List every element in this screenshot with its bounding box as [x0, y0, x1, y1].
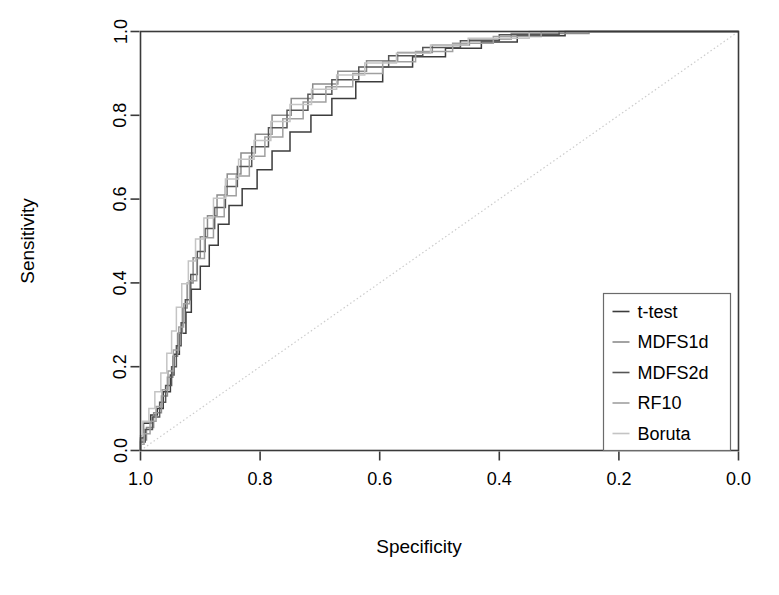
x-axis-tick-label: 0.2: [606, 469, 631, 489]
legend-item-label: Boruta: [638, 424, 692, 444]
y-axis-tick-label: 1.0: [111, 19, 131, 44]
legend-item-label: RF10: [638, 393, 682, 413]
legend-item-label: t-test: [638, 302, 678, 322]
x-axis-tick-label: 0.4: [487, 469, 512, 489]
legend-item-label: MDFS2d: [638, 363, 709, 383]
x-axis-tick-label: 0.6: [367, 469, 392, 489]
roc-chart-canvas: 1.00.80.60.40.20.0 0.00.20.40.60.81.0 Sp…: [0, 0, 779, 595]
y-axis-tick-label: 0.4: [111, 270, 131, 295]
x-axis-tick-label: 1.0: [128, 469, 153, 489]
y-axis-tick-label: 0.2: [111, 354, 131, 379]
x-axis-tick-label: 0.0: [726, 469, 751, 489]
y-axis-tick-label: 0.0: [111, 438, 131, 463]
y-axis-tick-label: 0.6: [111, 187, 131, 212]
roc-curve-figure: 1.00.80.60.40.20.0 0.00.20.40.60.81.0 Sp…: [0, 0, 779, 595]
legend[interactable]: t-testMDFS1dMDFS2dRF10Boruta: [604, 294, 731, 451]
x-axis-tick-label: 0.8: [248, 469, 273, 489]
x-axis-title: Specificity: [376, 536, 462, 557]
y-axis-tick-label: 0.8: [111, 103, 131, 128]
y-axis-title: Sensitivity: [17, 198, 38, 284]
legend-item-label: MDFS1d: [638, 332, 709, 352]
